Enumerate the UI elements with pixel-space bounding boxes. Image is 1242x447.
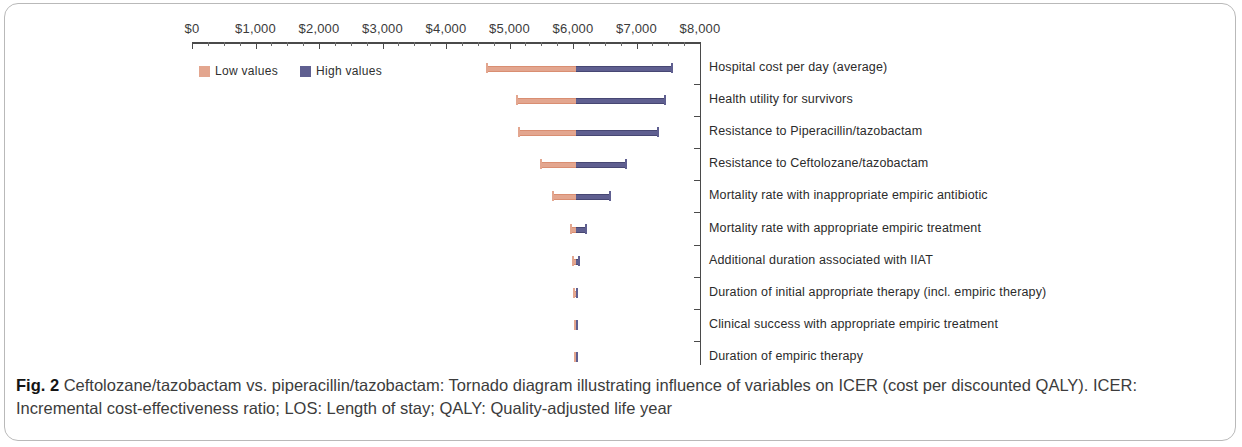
x-axis-tick-label: $8,000: [680, 21, 721, 36]
x-axis-minor-tick: [557, 42, 558, 46]
x-axis-minor-tick: [621, 42, 622, 46]
tornado-bar: [0, 125, 700, 139]
x-axis-major-tick: [446, 42, 447, 49]
x-axis-minor-tick: [668, 42, 669, 46]
x-axis-minor-tick: [271, 42, 272, 46]
tornado-bar-low-cap: [572, 256, 574, 266]
x-axis-minor-tick: [478, 42, 479, 46]
y-axis-line: [700, 43, 701, 365]
tornado-bar-high-cap: [576, 320, 578, 330]
x-axis-minor-tick: [589, 42, 590, 46]
category-label: Duration of empiric therapy: [709, 349, 863, 363]
tornado-bar-high-cap: [625, 159, 627, 169]
tornado-bar-high-cap: [576, 288, 578, 298]
x-axis-minor-tick: [351, 42, 352, 46]
x-axis-minor-tick: [414, 42, 415, 46]
tornado-bar: [0, 286, 700, 300]
x-axis-minor-tick: [541, 42, 542, 46]
y-axis-tick: [694, 116, 701, 117]
x-axis-minor-tick: [605, 42, 606, 46]
y-axis-tick: [694, 341, 701, 342]
x-axis-major-tick: [383, 42, 384, 49]
tornado-bar: [0, 189, 700, 203]
x-axis-major-tick: [319, 42, 320, 49]
tornado-bar-low-cap: [552, 191, 554, 201]
tornado-bar: [0, 157, 700, 171]
x-axis-tick-label: $0: [185, 21, 200, 36]
category-label: Mortality rate with appropriate empiric …: [709, 221, 981, 235]
tornado-bar-low-cap: [486, 63, 488, 73]
x-axis-minor-tick: [335, 42, 336, 46]
tornado-bar: [0, 350, 700, 364]
tornado-bar-low-segment: [541, 162, 576, 168]
figure-caption-text: Ceftolozane/tazobactam vs. piperacillin/…: [16, 376, 1137, 417]
category-label: Clinical success with appropriate empiri…: [709, 317, 998, 331]
tornado-bar-high-cap: [578, 256, 580, 266]
figure-caption: Fig. 2 Ceftolozane/tazobactam vs. pipera…: [16, 374, 1216, 420]
tornado-bar-high-segment: [576, 66, 672, 72]
tornado-bar-high-cap: [657, 127, 659, 137]
y-axis-tick: [694, 212, 701, 213]
x-axis-major-tick: [637, 42, 638, 49]
x-axis-minor-tick: [652, 42, 653, 46]
x-axis-tick-label: $3,000: [362, 21, 403, 36]
tornado-bar: [0, 222, 700, 236]
category-label: Health utility for survivors: [709, 92, 853, 106]
category-label: Resistance to Piperacillin/tazobactam: [709, 124, 922, 138]
tornado-bar-high-segment: [576, 162, 626, 168]
tornado-chart: $0$1,000$2,000$3,000$4,000$5,000$6,000$7…: [0, 0, 1242, 370]
x-axis-tick-label: $4,000: [426, 21, 467, 36]
x-axis-minor-tick: [240, 42, 241, 46]
tornado-bar-low-cap: [570, 224, 572, 234]
tornado-bar: [0, 61, 700, 75]
tornado-bar-high-segment: [576, 98, 665, 104]
category-label: Additional duration associated with IIAT: [709, 253, 933, 267]
y-axis-tick: [694, 309, 701, 310]
tornado-bar-low-segment: [553, 194, 576, 200]
tornado-bar-high-cap: [576, 352, 578, 362]
tornado-bar-low-cap: [516, 95, 518, 105]
x-axis-major-tick: [192, 42, 193, 49]
x-axis-tick-label: $2,000: [299, 21, 340, 36]
x-axis-minor-tick: [462, 42, 463, 46]
x-axis-minor-tick: [525, 42, 526, 46]
category-label: Hospital cost per day (average): [709, 60, 887, 74]
x-axis-minor-tick: [208, 42, 209, 46]
y-axis-tick: [694, 84, 701, 85]
tornado-bar: [0, 93, 700, 107]
x-axis-tick-label: $6,000: [553, 21, 594, 36]
tornado-bar-high-cap: [664, 95, 666, 105]
x-axis-minor-tick: [430, 42, 431, 46]
category-label: Mortality rate with inappropriate empiri…: [709, 188, 988, 202]
tornado-bar-low-segment: [487, 66, 576, 72]
tornado-bar-low-cap: [540, 159, 542, 169]
x-axis-minor-tick: [684, 42, 685, 46]
x-axis-minor-tick: [303, 42, 304, 46]
y-axis-tick: [694, 245, 701, 246]
y-axis-tick: [694, 148, 701, 149]
category-label: Duration of initial appropriate therapy …: [709, 285, 1046, 299]
y-axis-tick: [694, 180, 701, 181]
tornado-bar-high-cap: [585, 224, 587, 234]
y-axis-tick: [694, 277, 701, 278]
x-axis-minor-tick: [224, 42, 225, 46]
x-axis-major-tick: [573, 42, 574, 49]
tornado-bar-high-cap: [671, 63, 673, 73]
x-axis-major-tick: [510, 42, 511, 49]
x-axis-minor-tick: [494, 42, 495, 46]
x-axis-minor-tick: [367, 42, 368, 46]
x-axis-minor-tick: [287, 42, 288, 46]
x-axis-major-tick: [256, 42, 257, 49]
tornado-bar: [0, 318, 700, 332]
x-axis-tick-label: $5,000: [489, 21, 530, 36]
tornado-bar-low-cap: [573, 288, 575, 298]
tornado-bar-low-segment: [517, 98, 576, 104]
tornado-bar-high-cap: [609, 191, 611, 201]
figure-page: $0$1,000$2,000$3,000$4,000$5,000$6,000$7…: [0, 0, 1242, 447]
category-label: Resistance to Ceftolozane/tazobactam: [709, 156, 928, 170]
figure-number: Fig. 2: [16, 376, 59, 394]
tornado-bar-low-cap: [518, 127, 520, 137]
x-axis-tick-label: $1,000: [235, 21, 276, 36]
x-axis-minor-tick: [398, 42, 399, 46]
tornado-bar-low-segment: [519, 130, 576, 136]
